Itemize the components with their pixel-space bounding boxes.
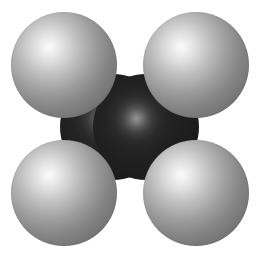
atom-hydrogen-bottom-right: [143, 140, 249, 246]
atom-hydrogen-top-right: [143, 12, 249, 118]
molecule-viewport: [0, 0, 259, 254]
atom-hydrogen-top-left: [11, 12, 117, 118]
atom-hydrogen-bottom-left: [11, 140, 117, 246]
